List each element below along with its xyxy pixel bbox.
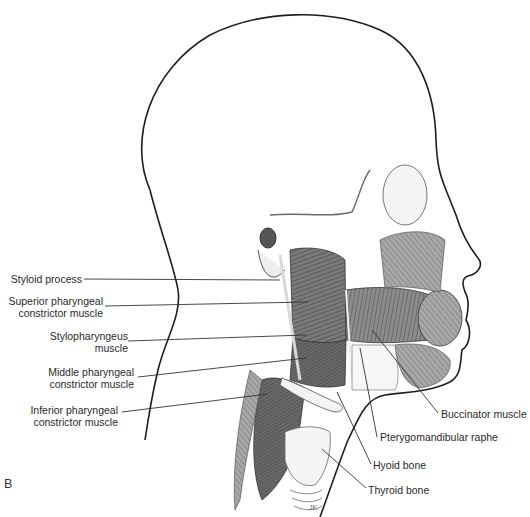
- svg-text:JK: JK: [309, 504, 318, 511]
- label-inferior-pharyngeal-constrictor: Inferior pharyngeal constrictor muscle: [0, 404, 118, 428]
- label-pterygomandibular-raphe: Pterygomandibular raphe: [380, 431, 498, 443]
- label-middle-pharyngeal-constrictor: Middle pharyngeal constrictor muscle: [0, 366, 134, 390]
- label-buccinator-muscle: Buccinator muscle: [441, 408, 527, 420]
- label-stylopharyngeus-muscle: Stylopharyngeus muscle: [0, 330, 128, 354]
- label-hyoid-bone: Hyoid bone: [373, 459, 426, 471]
- label-superior-pharyngeal-constrictor: Superior pharyngeal constrictor muscle: [0, 295, 103, 319]
- panel-letter: B: [4, 477, 12, 491]
- anatomy-figure: JK Styloid process Superior pharyngeal c…: [0, 0, 530, 517]
- label-styloid-process: Styloid process: [0, 273, 82, 285]
- label-thyroid-bone: Thyroid bone: [368, 484, 429, 496]
